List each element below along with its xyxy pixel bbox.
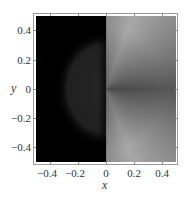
- x-tick: [162, 13, 163, 16]
- y-tick: [175, 147, 178, 148]
- x-tick: [78, 13, 79, 16]
- x-tick: [78, 162, 79, 165]
- y-tick: [175, 89, 178, 90]
- y-tick: [175, 30, 178, 31]
- y-axis-title: y: [11, 81, 16, 96]
- y-tick: [175, 118, 178, 119]
- y-tick: [33, 30, 36, 31]
- y-tick-label: 0: [26, 84, 32, 95]
- y-tick: [175, 60, 178, 61]
- y-tick: [33, 118, 36, 119]
- discontinuity-edge: [98, 16, 115, 162]
- x-tick: [134, 13, 135, 16]
- x-tick: [50, 162, 51, 165]
- x-tick: [50, 13, 51, 16]
- y-tick-label: 0.4: [17, 25, 31, 36]
- x-tick: [162, 162, 163, 165]
- x-tick-label: 0.4: [155, 168, 169, 179]
- x-tick-label: 0.2: [127, 168, 141, 179]
- heatmap-area: [36, 16, 176, 162]
- x-tick: [106, 13, 107, 16]
- x-axis-title: x: [102, 178, 107, 193]
- y-tick-label: 0.2: [17, 55, 31, 66]
- right-gray-field: [106, 16, 176, 162]
- y-tick: [33, 89, 36, 90]
- x-tick: [106, 162, 107, 165]
- left-parabolic-lobe: [36, 16, 106, 162]
- y-tick: [33, 147, 36, 148]
- y-tick-label: −0.4: [11, 142, 31, 153]
- x-tick: [134, 162, 135, 165]
- y-tick-label: −0.2: [11, 113, 31, 124]
- x-tick-label: −0.2: [65, 168, 85, 179]
- x-tick-label: −0.4: [37, 168, 57, 179]
- y-tick: [33, 60, 36, 61]
